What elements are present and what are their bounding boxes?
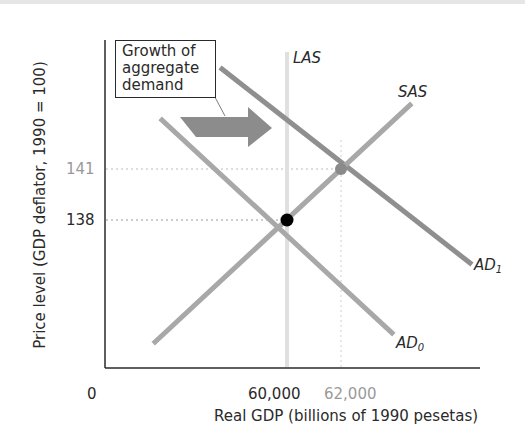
ad1-label-main: AD — [474, 256, 496, 274]
x-tick-62000: 62,000 — [324, 385, 377, 403]
initial-equilibrium-point — [281, 214, 294, 227]
growth-callout: Growth of aggregate demand — [115, 40, 216, 98]
x-tick-60000: 60,000 — [248, 385, 301, 403]
callout-line-3: demand — [122, 77, 210, 94]
sas-label: SAS — [398, 83, 427, 101]
ad0-label-sub: 0 — [418, 342, 424, 353]
y-tick-138: 138 — [66, 211, 95, 229]
ad1-label: AD1 — [474, 256, 502, 275]
ad1-label-sub: 1 — [496, 264, 502, 275]
growth-arrow-icon — [180, 107, 272, 147]
x-axis-title: Real GDP (billions of 1990 pesetas) — [214, 407, 478, 425]
x-tick-origin: 0 — [87, 385, 97, 403]
ad0-label-main: AD — [396, 334, 418, 352]
ad0-label: AD0 — [396, 334, 424, 353]
las-label: LAS — [293, 49, 321, 67]
y-tick-141: 141 — [66, 160, 95, 178]
callout-line-1: Growth of — [122, 43, 210, 60]
new-equilibrium-point — [335, 163, 347, 175]
y-axis-title: Price level (GDP deflator, 1990 = 100) — [31, 61, 49, 349]
callout-line-2: aggregate — [122, 60, 210, 77]
